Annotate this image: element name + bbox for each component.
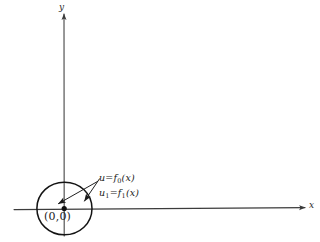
math-figure-canvas: y x (0,0) u=f0(x) u1=f1(x) <box>0 0 320 242</box>
x-axis-label: x <box>309 200 314 210</box>
figure-vector-layer <box>0 0 320 242</box>
f1-arg: (x) <box>126 187 139 198</box>
origin-coordinate-label: (0,0) <box>44 210 71 223</box>
arrow-to-f0 <box>85 179 100 201</box>
f0-arg: (x) <box>122 172 135 183</box>
y-axis-label: y <box>59 2 64 12</box>
f1-equals: = <box>110 187 118 198</box>
function-label-f0: u=f0(x) <box>99 172 135 185</box>
function-label-f1: u1=f1(x) <box>99 187 139 200</box>
f0-equals: = <box>105 172 113 183</box>
